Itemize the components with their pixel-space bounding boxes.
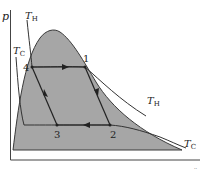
y-axis-label: p [2, 10, 9, 23]
th-label-right: TH [147, 95, 160, 108]
point-1-marker [84, 66, 87, 69]
point-3-label: 3 [54, 129, 60, 140]
tc-label-top: TC [13, 45, 25, 58]
tc-label-right: TC [184, 138, 196, 151]
point-4-marker [31, 66, 34, 69]
corner-mark: ·· [194, 165, 198, 171]
point-4-label: 4 [23, 62, 29, 73]
point-2-label: 2 [110, 129, 116, 140]
point-2-marker [109, 124, 112, 127]
point-3-marker [56, 124, 59, 127]
point-1-label: 1 [83, 53, 89, 64]
pv-diagram: p 1 2 3 4 TH TC TH TC ·· [0, 0, 202, 171]
